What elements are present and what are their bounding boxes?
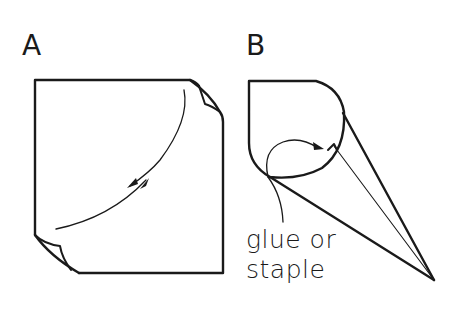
diagram-canvas: A B (0, 0, 461, 332)
annotation-staple: staple (246, 256, 325, 284)
panel-a-sheet (35, 80, 223, 273)
seam-arrow-icon (313, 142, 324, 150)
annotation-glue-or: glue or (246, 226, 336, 254)
diagram-drawing (0, 0, 461, 332)
